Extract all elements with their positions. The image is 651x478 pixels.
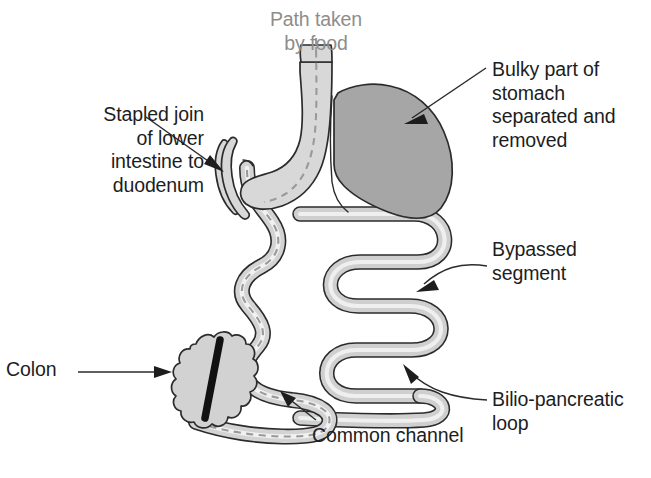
removed-stomach-portion (334, 84, 452, 218)
label-path-taken-by-food: Path taken by food (238, 8, 394, 55)
diagram-root: .o { fill: none; stroke: #2b2b2b; stroke… (0, 0, 651, 478)
label-colon: Colon (6, 358, 98, 382)
colon (172, 332, 259, 428)
leader-bulky-part (404, 68, 486, 124)
label-common-channel: Common channel (312, 424, 520, 448)
gastric-sleeve (241, 62, 332, 209)
label-stapled-join: Stapled join of lower intestine to duode… (8, 103, 204, 197)
label-bulky-part-of-stomach: Bulky part of stomach separated and remo… (492, 58, 648, 152)
bypassed-segment-limb (300, 214, 445, 396)
label-bypassed-segment: Bypassed segment (492, 238, 642, 285)
